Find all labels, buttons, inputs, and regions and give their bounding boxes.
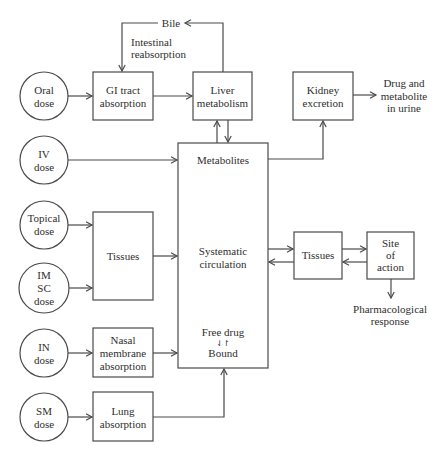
tissues-left-node: Tissues (93, 212, 153, 300)
iv-dose-label-line2: dose (34, 161, 54, 173)
sm-dose-node: SM dose (20, 393, 68, 441)
metabolites-label: Metabolites (197, 154, 249, 166)
gi-tract-absorption-node: GI tract absorption (93, 72, 153, 120)
in-dose-circle (20, 329, 68, 377)
lung-label-line2: absorption (100, 418, 147, 430)
arrow-lung-to-circulation (153, 369, 224, 417)
topical-dose-node: Topical dose (20, 201, 68, 249)
arrow-liver-to-bile (185, 23, 223, 72)
liver-label-line2: metabolism (197, 97, 249, 109)
tissues-right-node: Tissues (294, 232, 342, 279)
oral-dose-label-line1: Oral (34, 84, 54, 96)
in-dose-label-line1: IN (38, 341, 50, 353)
im-sc-dose-label-line1: IM (37, 269, 51, 281)
lung-absorption-node: Lung absorption (93, 392, 153, 441)
oral-dose-circle (20, 72, 68, 120)
arrow-circulation-to-kidney (268, 121, 323, 159)
in-dose-label-line2: dose (34, 354, 54, 366)
iv-dose-circle (20, 136, 68, 184)
tissues-right-label: Tissues (302, 249, 335, 261)
liver-metabolism-node: Liver metabolism (193, 72, 252, 120)
sm-dose-circle (20, 393, 68, 441)
site-label-line2: of (386, 249, 396, 261)
bound-label: Bound (208, 347, 238, 359)
bile-label: Bile (162, 17, 180, 29)
im-sc-dose-node: IM SC dose (19, 263, 69, 313)
topical-dose-label-line2: dose (34, 225, 54, 237)
sm-dose-label-line1: SM (36, 405, 52, 417)
urine-output-line1: Drug and (383, 77, 425, 89)
diagram-svg: Oral dose IV dose Topical dose IM SC dos… (0, 0, 442, 461)
gi-tract-label-line2: absorption (100, 97, 147, 109)
im-sc-dose-label-line2: SC (37, 282, 50, 294)
topical-dose-label-line1: Topical (28, 212, 61, 224)
urine-output-line3: in urine (387, 102, 421, 114)
kidney-label-line2: excretion (303, 97, 344, 109)
nasal-membrane-absorption-node: Nasal membrane absorption (93, 328, 153, 377)
site-of-action-node: Site of action (367, 232, 414, 279)
gi-tract-box (93, 72, 153, 120)
nasal-label-line1: Nasal (110, 334, 135, 346)
systematic-label-line2: circulation (199, 258, 247, 270)
iv-dose-label-line1: IV (38, 148, 50, 160)
tissues-left-label: Tissues (107, 250, 140, 262)
pharmacological-response-line1: Pharmacological (353, 303, 427, 315)
drug-disposition-diagram: Oral dose IV dose Topical dose IM SC dos… (0, 0, 442, 461)
site-label-line1: Site (382, 237, 399, 249)
nasal-label-line2: membrane (100, 347, 147, 359)
in-dose-node: IN dose (20, 329, 68, 377)
nasal-label-line3: absorption (100, 360, 147, 372)
im-sc-dose-label-line3: dose (34, 295, 54, 307)
lung-label-line1: Lung (111, 405, 135, 417)
intestinal-reabsorption-line1: Intestinal (131, 36, 172, 48)
gi-tract-label-line1: GI tract (106, 84, 140, 96)
liver-box (193, 72, 252, 120)
oral-dose-label-line2: dose (34, 97, 54, 109)
urine-output-line2: metabolite (381, 90, 428, 102)
liver-label-line1: Liver (211, 84, 235, 96)
sm-dose-label-line2: dose (34, 418, 54, 430)
systematic-label-line1: Systematic (199, 245, 247, 257)
site-label-line3: action (377, 261, 404, 273)
iv-dose-node: IV dose (20, 136, 68, 184)
kidney-box (293, 72, 353, 120)
intestinal-reabsorption-line2: reabsorption (131, 48, 186, 60)
kidney-excretion-node: Kidney excretion (293, 72, 353, 120)
pharmacological-response-line2: response (371, 315, 410, 327)
systemic-circulation-node: Metabolites Systematic circulation Free … (178, 143, 268, 368)
oral-dose-node: Oral dose (20, 72, 68, 120)
free-drug-label: Free drug (202, 326, 245, 338)
kidney-label-line1: Kidney (307, 84, 340, 96)
